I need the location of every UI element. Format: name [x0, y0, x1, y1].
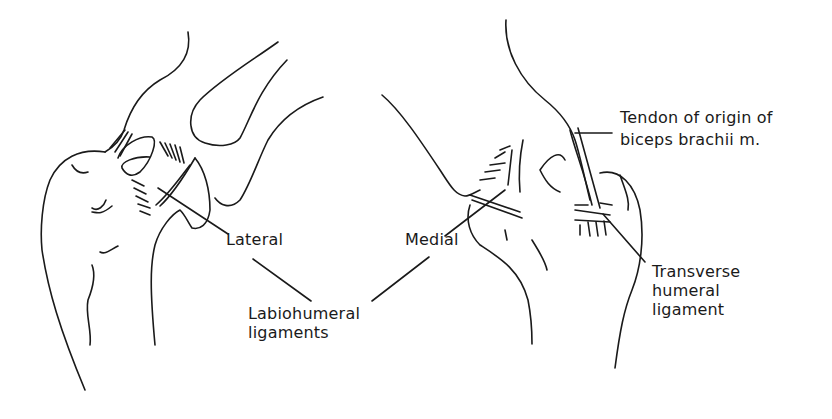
- labiohumeral-leader-right: [372, 257, 429, 301]
- medial-view-drawing: [382, 20, 645, 368]
- label-transverse-1: Transverse: [652, 262, 740, 281]
- line-drawing: [0, 0, 832, 419]
- label-transverse-2: humeral: [652, 281, 720, 300]
- label-lateral: Lateral: [226, 230, 283, 249]
- label-transverse-3: ligament: [652, 300, 724, 319]
- shoulder-ligament-diagram: Lateral Medial Labiohumeral ligaments Te…: [0, 0, 832, 419]
- label-medial: Medial: [405, 230, 459, 249]
- label-labiohumeral-2: ligaments: [248, 323, 329, 342]
- labiohumeral-leader-left: [253, 259, 311, 301]
- label-tendon-1: Tendon of origin of: [620, 108, 773, 127]
- label-tendon-2: biceps brachii m.: [620, 130, 760, 149]
- label-labiohumeral-1: Labiohumeral: [248, 304, 360, 323]
